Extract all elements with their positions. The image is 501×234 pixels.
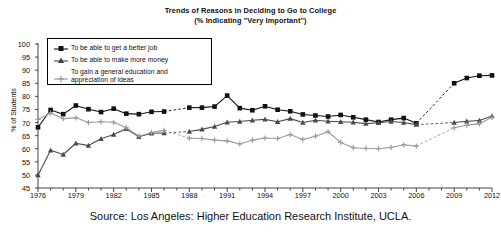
legend-item-more-money: To be able to make more money [53,56,168,65]
legend-label-general-education: To gain a general education andappreciat… [69,68,168,84]
plus-marker-icon [53,75,69,85]
triangle-marker-icon [53,56,69,65]
plot-area [0,0,501,234]
legend-label-more-money: To be able to make more money [69,56,168,64]
legend-item-better-job: To be able to get a better job [53,44,157,53]
chart-container: Trends of Reasons in Deciding to Go to C… [0,0,501,234]
series-triangle [35,113,494,177]
chart-legend: To be able to get a better job To be abl… [47,38,212,85]
square-marker-icon [53,44,69,53]
source-caption: Source: Los Angeles: Higher Education Re… [0,210,501,222]
legend-label-better-job: To be able to get a better job [69,44,157,52]
legend-item-general-education: To gain a general education andappreciat… [53,68,168,84]
